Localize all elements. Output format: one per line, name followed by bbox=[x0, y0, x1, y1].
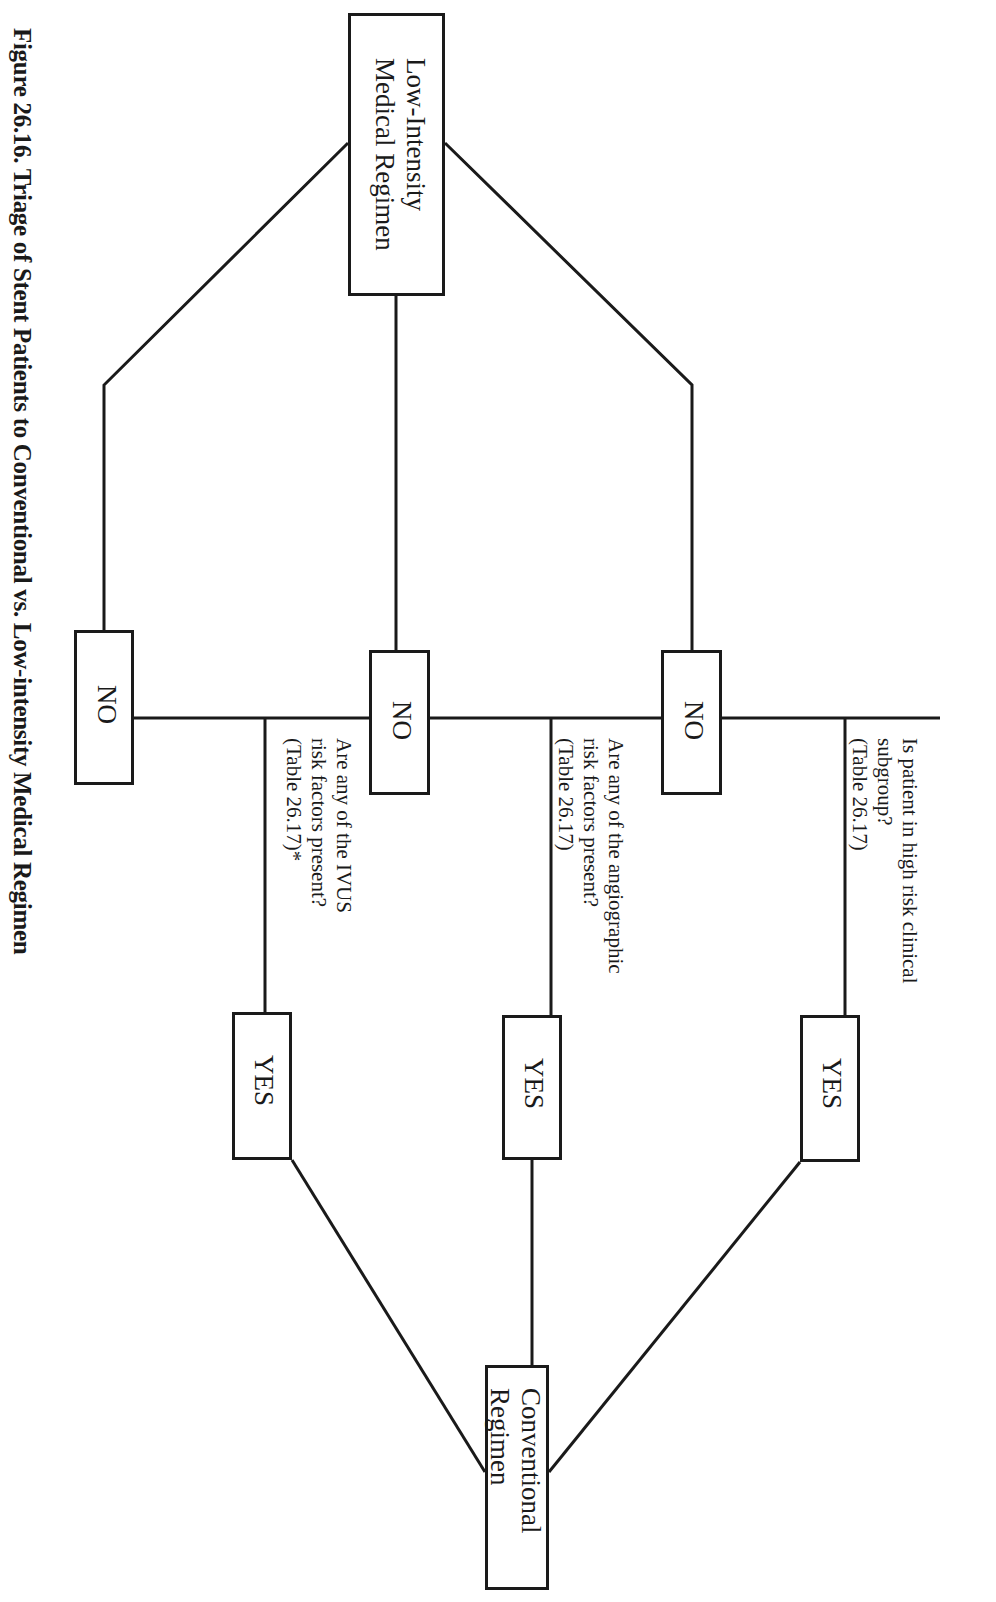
conventional-line1: Conventional bbox=[515, 1388, 546, 1533]
conventional-label: Conventional Regimen bbox=[484, 1388, 546, 1533]
figure-caption: Figure 26.16. Triage of Stent Patients t… bbox=[8, 28, 36, 954]
question-line: (Table 26.17)* bbox=[281, 738, 306, 913]
low-intensity-label: Low-Intensity Medical Regimen bbox=[369, 58, 431, 251]
question-line: Are any of the angiographic bbox=[603, 738, 628, 974]
no-label: NO bbox=[91, 685, 122, 724]
no-node-angiographic: NO bbox=[369, 650, 430, 795]
conventional-regimen-node: Conventional Regimen bbox=[485, 1365, 549, 1590]
question-line: Are any of the IVUS bbox=[331, 738, 356, 913]
question-line: (Table 26.17) bbox=[847, 738, 872, 984]
low-intensity-line2: Medical Regimen bbox=[369, 58, 400, 251]
question-clinical-subgroup: Is patient in high risk clinical subgrou… bbox=[847, 738, 922, 984]
conventional-line2: Regimen bbox=[484, 1388, 515, 1533]
no-label: NO bbox=[386, 701, 417, 740]
yes-label: YES bbox=[518, 1058, 549, 1109]
question-line: subgroup? bbox=[872, 738, 897, 984]
yes-node-angiographic: YES bbox=[502, 1015, 562, 1160]
no-node-clinical: NO bbox=[661, 650, 722, 795]
low-intensity-regimen-node: Low-Intensity Medical Regimen bbox=[348, 13, 445, 296]
question-line: Is patient in high risk clinical bbox=[897, 738, 922, 984]
question-line: risk factors present? bbox=[306, 738, 331, 913]
question-angiographic-risk: Are any of the angiographic risk factors… bbox=[553, 738, 628, 974]
no-node-ivus: NO bbox=[74, 630, 134, 785]
yes-label: YES bbox=[816, 1058, 847, 1109]
yes-node-clinical: YES bbox=[800, 1015, 860, 1162]
question-line: (Table 26.17) bbox=[553, 738, 578, 974]
question-ivus-risk: Are any of the IVUS risk factors present… bbox=[281, 738, 356, 913]
question-line: risk factors present? bbox=[578, 738, 603, 974]
yes-label: YES bbox=[248, 1055, 279, 1106]
no-label: NO bbox=[678, 701, 709, 740]
yes-node-ivus: YES bbox=[232, 1012, 292, 1160]
low-intensity-line1: Low-Intensity bbox=[400, 58, 431, 251]
